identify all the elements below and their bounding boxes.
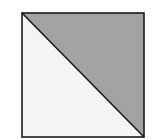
diagram-canvas bbox=[0, 0, 152, 139]
